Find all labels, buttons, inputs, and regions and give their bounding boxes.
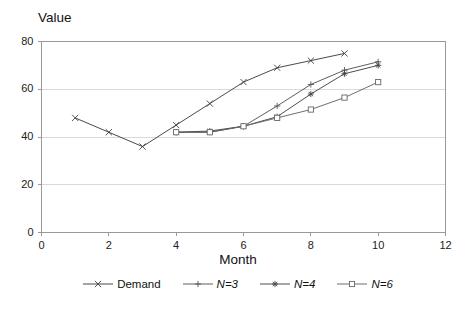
legend-label: N=3 (217, 278, 238, 290)
data-point-n-6 (174, 130, 179, 135)
data-point-demand (106, 129, 112, 135)
x-tick-label: 10 (363, 239, 393, 251)
x-marker-icon (83, 278, 113, 290)
square-marker-icon (337, 278, 367, 290)
x-tick-label: 0 (27, 239, 57, 251)
legend-item-demand[interactable]: Demand (83, 278, 160, 290)
data-point-demand (139, 143, 145, 149)
y-tick-label: 60 (4, 82, 34, 94)
line-chart: Value 020406080024681012 Month DemandN=3… (0, 0, 476, 316)
x-tick-label: 8 (296, 239, 326, 251)
y-tick-label: 0 (4, 226, 34, 238)
data-point-n-3 (274, 103, 280, 109)
data-point-n-6 (207, 130, 212, 135)
data-point-demand (72, 115, 78, 121)
legend-item-n-3[interactable]: N=3 (183, 278, 238, 290)
legend-label: N=4 (294, 278, 315, 290)
plus-marker-icon (183, 278, 213, 290)
data-point-n-6 (308, 107, 313, 112)
data-point-demand (207, 100, 213, 106)
data-point-n-6 (275, 115, 280, 120)
legend-label: N=6 (371, 278, 392, 290)
data-point-n-4 (341, 71, 347, 77)
data-point-demand (240, 79, 246, 85)
chart-legend: DemandN=3N=4N=6 (0, 278, 476, 290)
series-line-n-4 (176, 65, 378, 132)
x-tick-label: 6 (229, 239, 259, 251)
legend-item-n-4[interactable]: N=4 (260, 278, 315, 290)
data-point-demand (173, 122, 179, 128)
y-tick-label: 20 (4, 178, 34, 190)
y-tick-label: 80 (4, 35, 34, 47)
data-point-n-4 (375, 62, 381, 68)
y-tick-label: 40 (4, 130, 34, 142)
legend-item-n-6[interactable]: N=6 (337, 278, 392, 290)
plot-area (0, 0, 476, 316)
legend-label: Demand (117, 278, 160, 290)
series-line-n-3 (176, 62, 378, 132)
data-point-n-6 (342, 95, 347, 100)
data-point-n-6 (241, 124, 246, 129)
x-tick-label: 12 (431, 239, 461, 251)
x-tick-label: 4 (161, 239, 191, 251)
x-tick-label: 2 (94, 239, 124, 251)
data-point-n-6 (376, 79, 381, 84)
star-marker-icon (260, 278, 290, 290)
data-point-n-4 (308, 91, 314, 97)
x-axis-title: Month (0, 252, 476, 267)
data-point-n-3 (308, 81, 314, 87)
